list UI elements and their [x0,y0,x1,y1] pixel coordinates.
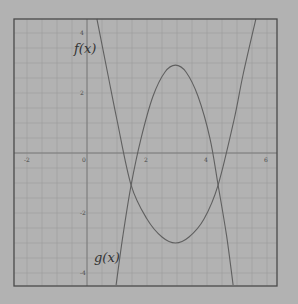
axes [14,19,277,286]
x-tick-label: 2 [144,156,148,163]
f-label: f(x) [73,41,96,56]
x-tick-label: -2 [24,156,30,163]
chart: -2024642-2-4 f(x) g(x) [0,0,298,304]
plot-area: -2024642-2-4 f(x) g(x) [0,0,298,304]
y-tick-label: 4 [80,29,84,36]
y-tick-label: -4 [80,269,86,276]
g-label: g(x) [94,250,120,265]
g-curve [116,65,233,285]
y-tick-label: 2 [80,89,84,96]
y-tick-label: -2 [80,209,86,216]
x-tick-label: 6 [264,156,268,163]
curves [97,19,256,285]
f-curve [97,19,256,243]
x-tick-label: 4 [204,156,208,163]
x-tick-label: 0 [82,156,86,163]
